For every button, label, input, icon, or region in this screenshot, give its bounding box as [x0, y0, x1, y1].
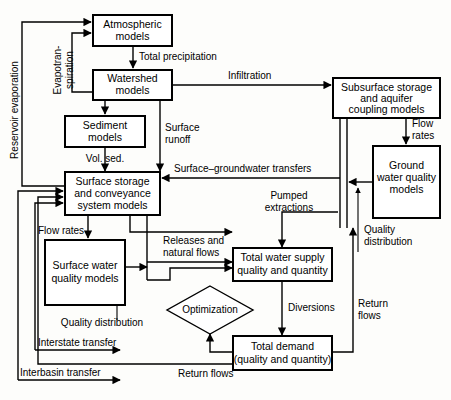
node-ground-water-quality-line-1: Ground	[389, 159, 424, 171]
label-return-flows-bottom: Return flows	[178, 368, 234, 379]
node-sediment-models-line-2: models	[88, 131, 122, 143]
label-evapotranspiration-line-2: spiration	[64, 51, 75, 89]
node-total-water-supply-line-1: Total water supply	[240, 251, 325, 263]
edge-total-demand-to-optimization	[210, 334, 232, 352]
node-watershed-models-line-2: models	[116, 84, 150, 96]
label-surface-groundwater-transfers: Surface–groundwater transfers	[174, 163, 311, 174]
node-surface-water-quality: Surface water quality models	[45, 240, 125, 305]
node-surface-storage-line-1: Surface storage	[75, 175, 149, 187]
node-surface-water-quality-line-2: quality models	[51, 272, 118, 284]
node-atmospheric-models: Atmospheric models	[93, 15, 172, 46]
node-sediment-models: Sediment models	[65, 116, 145, 147]
flowchart-canvas: Atmospheric models Watershed models Sedi…	[0, 0, 451, 400]
label-surface-runoff-line-2: runoff	[165, 134, 191, 145]
node-surface-storage-line-2: and conveyance	[74, 187, 151, 199]
label-vol-sed: Vol. sed.	[86, 153, 124, 164]
edge-evapotranspiration	[72, 33, 93, 92]
label-releases-natural-flows: Releases and natural flows	[163, 235, 224, 258]
node-sediment-models-line-1: Sediment	[83, 119, 127, 131]
label-return-flows-right: Return flows	[358, 298, 388, 321]
label-reservoir-evaporation: Reservoir evaporation	[9, 61, 20, 159]
node-ground-water-quality-line-2: water quality	[376, 171, 437, 183]
node-atmospheric-models-line-2: models	[116, 30, 150, 42]
node-watershed-models: Watershed models	[93, 70, 172, 100]
flowchart-diagram: Atmospheric models Watershed models Sedi…	[0, 0, 451, 400]
label-total-precipitation: Total precipitation	[139, 51, 217, 62]
node-total-demand-line-2: (quality and quantity)	[234, 353, 331, 365]
label-interstate-transfer: Interstate transfer	[38, 337, 117, 348]
label-return-flows-right-line-1: Return	[358, 298, 388, 309]
label-infiltration: Infiltration	[228, 70, 271, 81]
node-total-water-supply-line-2: quality and quantity	[237, 264, 328, 276]
label-flow-rates-right: Flow rates	[412, 118, 434, 141]
label-quality-distribution-left: Quality distribution	[61, 317, 143, 328]
label-flow-rates-right-line-1: Flow	[412, 118, 434, 129]
node-optimization-label: Optimization	[182, 304, 238, 315]
node-surface-water-quality-line-1: Surface water	[53, 259, 118, 271]
node-subsurface-storage: Subsurface storage and aquifer coupling …	[333, 78, 440, 118]
node-surface-storage-line-3: system models	[77, 199, 147, 211]
label-flow-rates-left: Flow rates	[38, 225, 84, 236]
label-flow-rates-right-line-2: rates	[412, 130, 434, 141]
label-releases-natural-flows-line-1: Releases and	[163, 235, 224, 246]
node-ground-water-quality-line-3: models	[390, 183, 424, 195]
label-pumped-extractions: Pumped extractions	[265, 190, 313, 213]
label-quality-distribution-right: Quality distribution	[364, 224, 412, 247]
node-watershed-models-line-1: Watershed	[107, 72, 158, 84]
node-total-demand: Total demand (quality and quantity)	[233, 336, 332, 370]
node-optimization: Optimization	[167, 286, 253, 334]
label-surface-runoff-line-1: Surface	[165, 122, 200, 133]
label-diversions: Diversions	[288, 302, 335, 313]
label-return-flows-right-line-2: flows	[358, 310, 381, 321]
node-ground-water-quality: Ground water quality models	[373, 146, 440, 218]
node-subsurface-storage-line-3: coupling models	[349, 103, 425, 115]
edge-pumped-extractions	[282, 212, 338, 247]
label-interbasin-transfer: Interbasin transfer	[20, 367, 101, 378]
node-total-demand-line-1: Total demand	[251, 340, 314, 352]
label-pumped-extractions-line-2: extractions	[265, 202, 313, 213]
label-evapotranspiration-line-1: Evapotran-	[52, 46, 63, 95]
label-evapotranspiration: Evapotran- spiration	[52, 46, 75, 95]
edge-optimization-to-total-supply	[147, 268, 232, 280]
edge-surface-storage-releases-upper	[130, 215, 232, 232]
label-quality-distribution-right-line-1: Quality	[364, 224, 395, 235]
node-total-water-supply: Total water supply quality and quantity	[233, 248, 332, 281]
node-surface-storage: Surface storage and conveyance system mo…	[65, 172, 160, 215]
label-pumped-extractions-line-1: Pumped	[270, 190, 307, 201]
edge-return-flows-right	[332, 228, 353, 352]
node-atmospheric-models-line-1: Atmospheric	[103, 18, 161, 30]
label-surface-runoff: Surface runoff	[165, 122, 200, 145]
label-releases-natural-flows-line-2: natural flows	[163, 247, 219, 258]
label-quality-distribution-right-line-2: distribution	[364, 236, 412, 247]
